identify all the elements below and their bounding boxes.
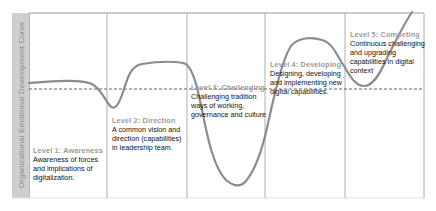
level-2-title: Level 2: Direction: [112, 116, 188, 125]
level-4-description: Designing, developing and implementing n…: [270, 69, 348, 96]
level-2-block: Level 2: Direction A common vision and d…: [112, 116, 188, 152]
level-1-description: Awareness of forces and implications of …: [33, 155, 108, 182]
development-curve-diagram: Organizational Emotional Development Cur…: [0, 0, 436, 211]
level-5-block: Level 5: Competing Continuous challengin…: [350, 30, 430, 75]
level-2-description: A common vision and direction (capabilit…: [112, 125, 188, 152]
level-4-title: Level 4: Developing: [270, 60, 348, 69]
level-5-title: Level 5: Competing: [350, 30, 430, 39]
level-1-block: Level 1: Awareness Awareness of forces a…: [33, 146, 108, 182]
level-4-block: Level 4: Developing Designing, developin…: [270, 60, 348, 96]
level-1-title: Level 1: Awareness: [33, 146, 108, 155]
level-3-block: Level 3: Challenging Challenging traditi…: [191, 83, 267, 119]
level-3-description: Challenging tradition ways of working, g…: [191, 92, 267, 119]
level-3-title: Level 3: Challenging: [191, 83, 267, 92]
level-5-description: Continuous challenging and upgrading cap…: [350, 39, 430, 75]
